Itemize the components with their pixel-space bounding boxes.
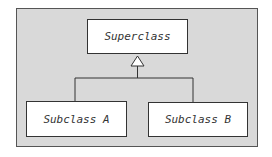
- subclass-a-label: Subclass A: [43, 113, 109, 126]
- superclass-label: Superclass: [104, 30, 170, 43]
- generalization-arrow-icon: [131, 56, 144, 66]
- subclass-b-label: Subclass B: [165, 113, 231, 126]
- subclass-a-box: Subclass A: [26, 101, 127, 137]
- subclass-b-box: Subclass B: [148, 102, 248, 137]
- superclass-box: Superclass: [87, 19, 188, 54]
